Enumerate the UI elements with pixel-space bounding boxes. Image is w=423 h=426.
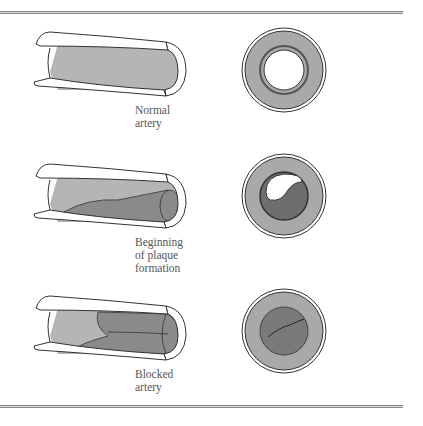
label-line: Blocked: [135, 368, 173, 381]
label-line: artery: [135, 117, 170, 130]
normal-artery-longitudinal: [28, 28, 188, 100]
plaque-cross-section: [240, 152, 328, 240]
plaque-artery-longitudinal: [28, 160, 188, 232]
blocked-artery-longitudinal: [28, 292, 188, 364]
label-line: Beginning: [135, 236, 183, 249]
normal-artery-cross-section: [240, 26, 328, 114]
blocked-label: Blocked artery: [135, 368, 173, 394]
label-line: of plaque: [135, 249, 183, 262]
label-line: Normal: [135, 104, 170, 117]
label-line: formation: [135, 262, 183, 275]
top-rule: [0, 11, 403, 14]
bottom-rule: [0, 405, 403, 408]
plaque-label: Beginning of plaque formation: [135, 236, 183, 275]
label-line: artery: [135, 381, 173, 394]
normal-artery-label: Normal artery: [135, 104, 170, 130]
blocked-cross-section: [240, 287, 328, 375]
